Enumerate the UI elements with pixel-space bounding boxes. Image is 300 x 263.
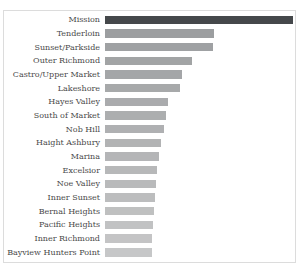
bar — [105, 57, 192, 66]
bar-row: Sunset/Parkside — [4, 40, 295, 54]
bar — [105, 248, 152, 257]
bar-row: Haight Ashbury — [4, 136, 295, 150]
category-label: Haight Ashbury — [4, 138, 100, 147]
category-label: Outer Richmond — [4, 56, 100, 65]
bar-row: Excelsior — [4, 163, 295, 177]
bar — [105, 125, 164, 134]
category-label: Inner Richmond — [4, 234, 100, 243]
chart-figure: Police Department Incidents by Neighborh… — [0, 0, 300, 263]
bar-row: South of Market — [4, 109, 295, 123]
category-label: Sunset/Parkside — [4, 43, 100, 52]
category-label: Noe Valley — [4, 179, 100, 188]
bar-row: Outer Richmond — [4, 54, 295, 68]
category-label: Mission — [4, 15, 100, 24]
bar-row: Pacific Heights — [4, 218, 295, 232]
bar — [105, 16, 293, 25]
bar-row: Lakeshore — [4, 81, 295, 95]
bar — [105, 207, 154, 216]
category-label: Marina — [4, 152, 100, 161]
bar — [105, 29, 214, 38]
category-label: Hayes Valley — [4, 97, 100, 106]
chart-title-clipped: Police Department Incidents by Neighborh… — [0, 0, 300, 6]
bar — [105, 152, 159, 161]
bar-row: Hayes Valley — [4, 95, 295, 109]
bar-row: Castro/Upper Market — [4, 68, 295, 82]
bar-row: Bernal Heights — [4, 204, 295, 218]
category-label: Bernal Heights — [4, 207, 100, 216]
category-label: Bayview Hunters Point — [4, 248, 100, 257]
bar — [105, 98, 168, 107]
category-label: Inner Sunset — [4, 193, 100, 202]
bar — [105, 84, 180, 93]
bar-row: Bayview Hunters Point — [4, 245, 295, 259]
category-label: Excelsior — [4, 166, 100, 175]
bar-row: Noe Valley — [4, 177, 295, 191]
bar — [105, 139, 161, 148]
bar — [105, 234, 152, 243]
bar — [105, 111, 166, 120]
bar — [105, 43, 213, 52]
bar-row: Tenderloin — [4, 27, 295, 41]
bar-row: Mission — [4, 13, 295, 27]
chart-panel: MissionTenderloinSunset/ParksideOuter Ri… — [3, 10, 296, 263]
bar — [105, 166, 157, 175]
category-label: Tenderloin — [4, 29, 100, 38]
category-label: Nob Hill — [4, 125, 100, 134]
bar — [105, 221, 153, 230]
bar — [105, 70, 182, 79]
bar-row: Inner Sunset — [4, 191, 295, 205]
bar — [105, 193, 155, 202]
bar-row: Nob Hill — [4, 122, 295, 136]
category-label: Lakeshore — [4, 84, 100, 93]
category-label: Pacific Heights — [4, 220, 100, 229]
category-label: Castro/Upper Market — [4, 70, 100, 79]
bar-row: Inner Richmond — [4, 232, 295, 246]
bar — [105, 180, 156, 189]
category-label: South of Market — [4, 111, 100, 120]
bar-row: Marina — [4, 150, 295, 164]
